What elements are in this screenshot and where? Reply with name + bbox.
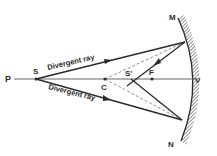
label-M: M — [169, 13, 176, 22]
label-S: S — [33, 67, 39, 76]
label-divergent-ray-upper: Divergent ray — [46, 52, 96, 72]
arrow-icon — [155, 97, 162, 105]
arrow-icon — [104, 59, 112, 64]
normal-line-lower — [105, 79, 182, 120]
label-N: N — [168, 140, 174, 149]
reflected-ray-lower — [131, 79, 182, 120]
normal-line-upper — [105, 42, 185, 79]
arrow-icon — [103, 95, 111, 101]
concave-mirror-diagram: P S C S' F V M N Divergent ray Divergent… — [0, 0, 217, 156]
label-C: C — [101, 83, 107, 92]
point-C — [103, 77, 106, 80]
label-V: V — [195, 76, 201, 85]
arrow-icon — [153, 58, 161, 66]
point-F — [150, 77, 153, 80]
label-S-prime: S' — [125, 69, 132, 78]
label-divergent-ray-lower: Divergent ray — [48, 82, 97, 103]
point-S — [35, 78, 38, 81]
label-P: P — [5, 74, 11, 84]
label-F: F — [149, 68, 154, 77]
